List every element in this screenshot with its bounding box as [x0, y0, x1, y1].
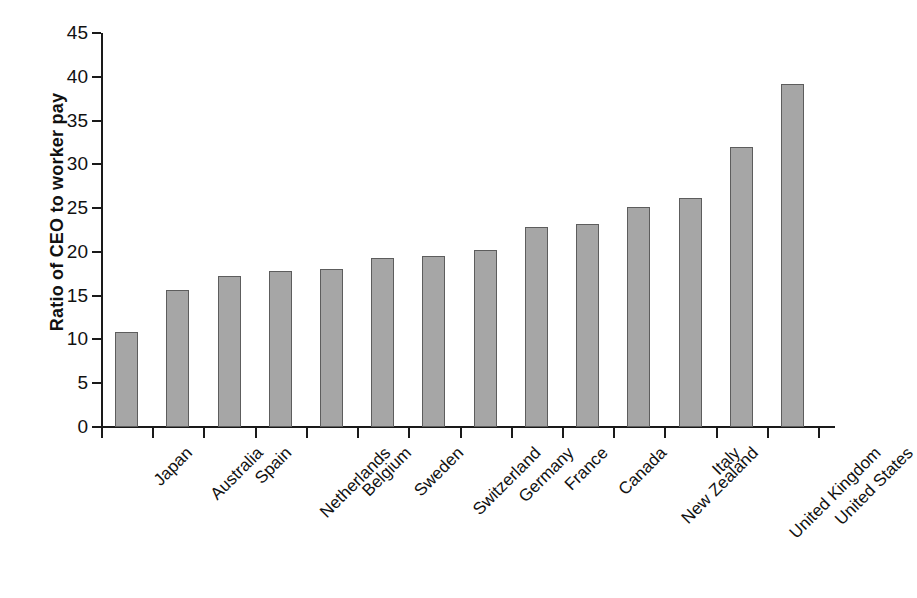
- x-axis-tick: [511, 428, 513, 438]
- y-axis-tick-label: 30: [48, 154, 88, 173]
- y-axis-tick: [92, 426, 101, 428]
- bar: [218, 276, 241, 427]
- bar: [166, 290, 189, 427]
- bar: [320, 269, 343, 427]
- y-axis-tick-label: 25: [48, 198, 88, 217]
- y-axis-tick: [92, 382, 101, 384]
- plot-area: [101, 33, 835, 427]
- x-axis-tick: [408, 428, 410, 438]
- y-axis-tick-label: 15: [48, 286, 88, 305]
- y-axis-tick: [92, 32, 101, 34]
- bar: [730, 147, 753, 427]
- y-axis-tick-label: 10: [48, 329, 88, 348]
- x-axis-label: Japan: [150, 444, 195, 489]
- x-axis-tick: [767, 428, 769, 438]
- x-axis-tick: [613, 428, 615, 438]
- x-axis-tick: [460, 428, 462, 438]
- x-axis-tick: [203, 428, 205, 438]
- y-axis-tick: [92, 338, 101, 340]
- x-axis-tick: [818, 428, 820, 438]
- x-axis-label: Sweden: [411, 444, 466, 499]
- x-axis-tick: [562, 428, 564, 438]
- bar: [371, 258, 394, 427]
- y-axis-tick: [92, 207, 101, 209]
- bar: [525, 227, 548, 428]
- bar: [781, 84, 804, 427]
- bar: [627, 207, 650, 427]
- x-axis-label: Canada: [615, 444, 669, 498]
- x-axis-tick: [716, 428, 718, 438]
- y-axis-tick: [92, 295, 101, 297]
- y-axis-tick: [92, 76, 101, 78]
- y-axis-tick: [92, 251, 101, 253]
- x-axis-tick: [306, 428, 308, 438]
- bar: [474, 250, 497, 427]
- y-axis-tick-label: 20: [48, 242, 88, 261]
- bar: [115, 332, 138, 427]
- x-axis-tick: [255, 428, 257, 438]
- bar: [269, 271, 292, 427]
- bar: [576, 224, 599, 427]
- x-axis-tick: [357, 428, 359, 438]
- bar: [422, 256, 445, 427]
- x-axis-tick: [664, 428, 666, 438]
- y-axis-tick: [92, 120, 101, 122]
- x-axis-tick: [152, 428, 154, 438]
- y-axis-tick-label: 35: [48, 111, 88, 130]
- y-axis-tick-label: 0: [48, 417, 88, 436]
- y-axis-tick: [92, 163, 101, 165]
- bar: [679, 198, 702, 427]
- y-axis-tick-label: 45: [48, 23, 88, 42]
- x-axis-tick: [101, 428, 103, 438]
- y-axis-tick-label: 5: [48, 373, 88, 392]
- y-axis-tick-label: 40: [48, 67, 88, 86]
